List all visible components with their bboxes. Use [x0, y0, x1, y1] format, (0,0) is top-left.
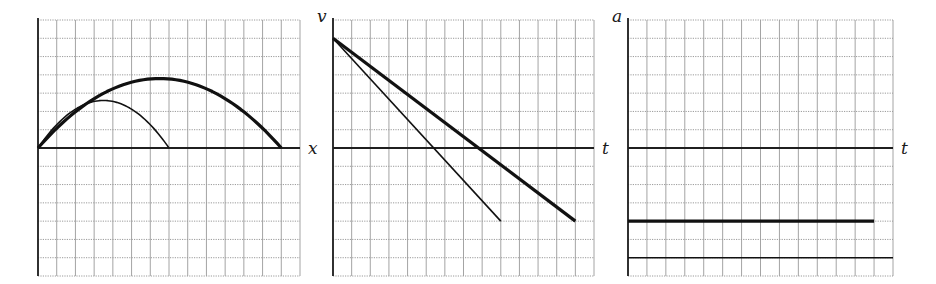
vertical-axis-label: v: [317, 6, 327, 26]
horizontal-axis-label: x: [308, 138, 318, 158]
thin-curve: [38, 100, 169, 148]
thick-curve: [38, 79, 281, 148]
velocity-graph: tv: [317, 6, 609, 276]
horizontal-axis-label: t: [901, 138, 908, 158]
vertical-axis-label: a: [612, 6, 622, 26]
kinematics-graphs-figure: x tv ta: [0, 0, 936, 284]
horizontal-axis-label: t: [602, 138, 609, 158]
position-graph: x: [38, 18, 318, 276]
acceleration-graph: ta: [612, 6, 908, 276]
